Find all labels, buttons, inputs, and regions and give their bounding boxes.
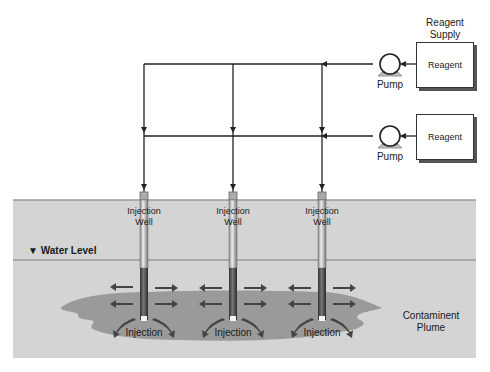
well-1-label-line2: Well bbox=[119, 217, 169, 228]
well-1-label: Injection Well bbox=[119, 206, 169, 228]
pump-2-label: Pump bbox=[370, 151, 410, 163]
contaminant-plume-label: Contaminent Plume bbox=[396, 310, 466, 334]
pump-2-icon bbox=[378, 126, 402, 148]
well-1-label-line1: Injection bbox=[119, 206, 169, 217]
reagent-box-2-label: Reagent bbox=[428, 132, 462, 142]
pump-1-icon bbox=[378, 54, 402, 76]
plume-label-line2: Plume bbox=[396, 322, 466, 334]
pump-1-label: Pump bbox=[370, 79, 410, 91]
water-level-label: ▼ Water Level bbox=[28, 245, 96, 257]
reagent-box-1-label: Reagent bbox=[428, 60, 462, 70]
well-3-injection-label: Injection bbox=[292, 327, 352, 339]
supply-title-line1: Reagent bbox=[408, 17, 482, 29]
well-2-label-line2: Well bbox=[208, 217, 258, 228]
reagent-supply-title: Reagent Supply bbox=[408, 17, 482, 41]
well-3-label-line1: Injection bbox=[297, 206, 347, 217]
supply-title-line2: Supply bbox=[408, 29, 482, 41]
reagent-box-1: Reagent bbox=[416, 42, 474, 88]
well-2-label-line1: Injection bbox=[208, 206, 258, 217]
plume-label-line1: Contaminent bbox=[396, 310, 466, 322]
well-3-label-line2: Well bbox=[297, 217, 347, 228]
reagent-box-2: Reagent bbox=[416, 114, 474, 160]
well-2-injection-label: Injection bbox=[203, 327, 263, 339]
well-2-label: Injection Well bbox=[208, 206, 258, 228]
well-1-injection-label: Injection bbox=[114, 327, 174, 339]
well-3-label: Injection Well bbox=[297, 206, 347, 228]
